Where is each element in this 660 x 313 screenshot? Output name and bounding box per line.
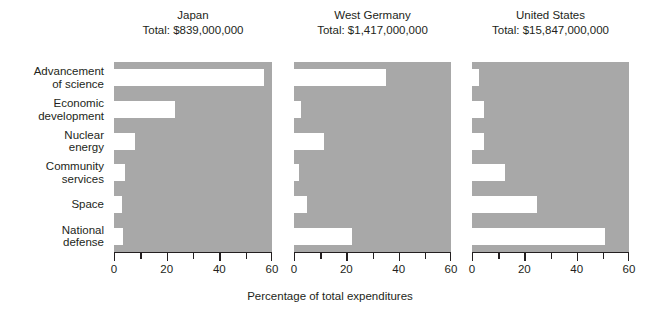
category-label-national-defense: National defense [0, 224, 104, 249]
bar [472, 164, 505, 181]
axis-tick [219, 253, 220, 261]
axis-tick [603, 253, 604, 259]
axis-tick [628, 253, 629, 261]
panel-title-united-states: United States [443, 8, 658, 23]
axis-tick [399, 253, 400, 261]
axis-tick-label: 40 [392, 263, 405, 276]
panel-header-japan: Japan Total: $839,000,000 [94, 8, 292, 38]
axis-tick-label: 20 [160, 263, 173, 276]
bar [472, 133, 484, 150]
axis-tick [167, 253, 168, 261]
bar [472, 101, 484, 118]
axis-tick [246, 253, 247, 259]
bar [114, 196, 122, 213]
axis-tick [294, 253, 295, 261]
bar [114, 101, 175, 118]
category-label-advancement-of-science: Advancement of science [0, 65, 104, 90]
category-label-nuclear-energy: Nuclear energy [0, 129, 104, 154]
category-label-space: Space [0, 198, 104, 211]
bar [472, 196, 537, 213]
axis-tick [425, 253, 426, 259]
bar [114, 133, 135, 150]
bar [294, 164, 299, 181]
axis-tick [320, 253, 321, 259]
bar [114, 69, 264, 86]
bar [294, 228, 352, 245]
plot-panel-japan [114, 62, 272, 252]
science-expenditures-grouped-bar-chart: Japan Total: $839,000,000 West Germany T… [0, 0, 660, 313]
axis-tick [472, 253, 473, 261]
x-axis-west-germany: 0204060 [294, 252, 451, 286]
bar [294, 196, 307, 213]
axis-tick [373, 253, 374, 259]
category-axis-labels: Advancement of science Economic developm… [0, 62, 108, 252]
panel-header-united-states: United States Total: $15,847,000,000 [443, 8, 658, 38]
axis-tick-label: 0 [469, 263, 475, 276]
axis-tick-label: 60 [266, 263, 279, 276]
panel-total-japan: Total: $839,000,000 [94, 23, 292, 38]
axis-tick-label: 20 [340, 263, 353, 276]
plot-panel-united-states [472, 62, 629, 252]
axis-tick-label: 40 [213, 263, 226, 276]
x-axis-japan: 0204060 [114, 252, 272, 286]
axis-tick [498, 253, 499, 259]
axis-tick [271, 253, 272, 261]
axis-tick [524, 253, 525, 261]
axis-tick-label: 0 [111, 263, 117, 276]
axis-tick [140, 253, 141, 259]
bar [472, 69, 479, 86]
bar [114, 228, 123, 245]
plot-panel-west-germany [294, 62, 451, 252]
bar [114, 164, 125, 181]
bar [294, 101, 301, 118]
bar [294, 69, 386, 86]
axis-tick-label: 40 [570, 263, 583, 276]
axis-tick-label: 20 [518, 263, 531, 276]
x-axis-title: Percentage of total expenditures [0, 290, 660, 302]
axis-tick-label: 0 [291, 263, 297, 276]
bar [294, 133, 324, 150]
category-label-economic-development: Economic development [0, 97, 104, 122]
bar [472, 228, 605, 245]
axis-tick [346, 253, 347, 261]
axis-tick [193, 253, 194, 259]
x-axis-united-states: 0204060 [472, 252, 629, 286]
axis-tick-label: 60 [445, 263, 458, 276]
axis-tick [551, 253, 552, 259]
axis-tick [577, 253, 578, 261]
axis-tick [114, 253, 115, 261]
panel-title-japan: Japan [94, 8, 292, 23]
panel-total-united-states: Total: $15,847,000,000 [443, 23, 658, 38]
category-label-community-services: Community services [0, 160, 104, 185]
axis-tick [450, 253, 451, 261]
axis-tick-label: 60 [623, 263, 636, 276]
